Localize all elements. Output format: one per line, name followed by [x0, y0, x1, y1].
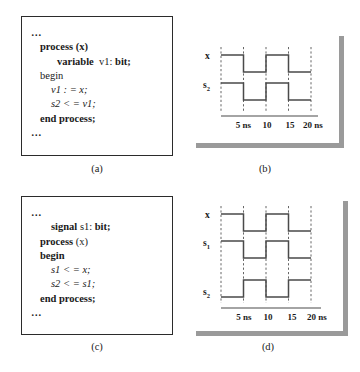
code-token: end process;: [40, 113, 96, 124]
code-token: s2 < = s1;: [51, 278, 95, 289]
code-ellipsis: …: [31, 207, 43, 218]
code-panel-c: … signal s1: bit; process (x) begin s1 <…: [21, 196, 173, 335]
panel-caption-a: (a): [77, 163, 117, 174]
code-token: v1:: [94, 56, 115, 67]
code-token: bit;: [115, 56, 131, 67]
code-token: begin: [40, 250, 65, 261]
vhdl-variable-vs-signal-figure: … process (x) variable v1: bit; begin v1…: [0, 0, 360, 372]
code-token: s1 < = x;: [51, 264, 91, 275]
code-line: s2 < = s1;: [31, 277, 164, 291]
code-token: process: [40, 236, 73, 247]
code-token: s1:: [77, 221, 95, 232]
code-line: variable v1: bit;: [31, 55, 164, 69]
code-line: v1 : = x;: [31, 83, 164, 97]
timing-diagram-d: x s1 s2 5 ns 10 15 20 ns: [191, 196, 343, 331]
code-line: end process;: [31, 292, 164, 306]
time-tick-label: 20 ns: [303, 120, 323, 130]
waveform-x: [221, 214, 311, 231]
code-token: process (x): [40, 41, 88, 52]
code-line: s2 < = v1;: [31, 97, 164, 111]
code-token: v1 : = x;: [51, 84, 88, 95]
waveform-s1: [221, 241, 311, 258]
panel-caption-d: (d): [248, 341, 288, 352]
code-token: variable: [57, 56, 94, 67]
time-tick-label: 10: [264, 312, 274, 322]
code-ellipsis: …: [31, 307, 43, 318]
panel-caption-b: (b): [245, 163, 285, 174]
code-token: end process;: [40, 293, 96, 304]
code-panel-a: … process (x) variable v1: bit; begin v1…: [21, 16, 173, 156]
time-tick-label: 20 ns: [307, 312, 327, 322]
code-ellipsis: …: [31, 127, 43, 138]
code-line: …: [31, 26, 164, 40]
code-token: bit;: [95, 221, 111, 232]
waveform-s2: [221, 280, 311, 297]
code-token: signal: [51, 221, 77, 232]
code-line: signal s1: bit;: [31, 220, 164, 234]
time-tick-label: 10: [263, 120, 273, 130]
time-tick-label: 5 ns: [236, 312, 252, 322]
code-line: process (x): [31, 40, 164, 54]
code-ellipsis: …: [31, 27, 43, 38]
waveform-label-x: x: [205, 210, 210, 220]
code-line: process (x): [31, 235, 164, 249]
code-line: …: [31, 306, 164, 320]
waveform-x: [221, 55, 311, 72]
waveform-label-s2: s2: [203, 80, 210, 92]
waveform-label-s1: s1: [203, 238, 210, 250]
panel-caption-c: (c): [77, 341, 117, 352]
code-line: begin: [31, 249, 164, 263]
code-line: end process;: [31, 112, 164, 126]
timing-panel-b: x s2 5 ns 10 15 20 ns: [191, 31, 339, 143]
code-token: begin: [40, 70, 63, 81]
time-tick-label: 5 ns: [236, 120, 252, 130]
code-line: …: [31, 126, 164, 140]
timing-diagram-b: x s2 5 ns 10 15 20 ns: [191, 31, 339, 143]
code-line: begin: [31, 69, 164, 83]
code-token: s2 < = v1;: [51, 98, 96, 109]
timing-panel-d: x s1 s2 5 ns 10 15 20 ns: [191, 196, 343, 331]
code-token: (x): [73, 236, 88, 247]
time-tick-label: 15: [286, 120, 296, 130]
waveform-s2: [221, 83, 311, 100]
code-line: …: [31, 206, 164, 220]
waveform-label-x: x: [205, 51, 210, 61]
waveform-label-s2: s2: [203, 287, 210, 299]
time-tick-label: 15: [288, 312, 298, 322]
code-line: s1 < = x;: [31, 263, 164, 277]
